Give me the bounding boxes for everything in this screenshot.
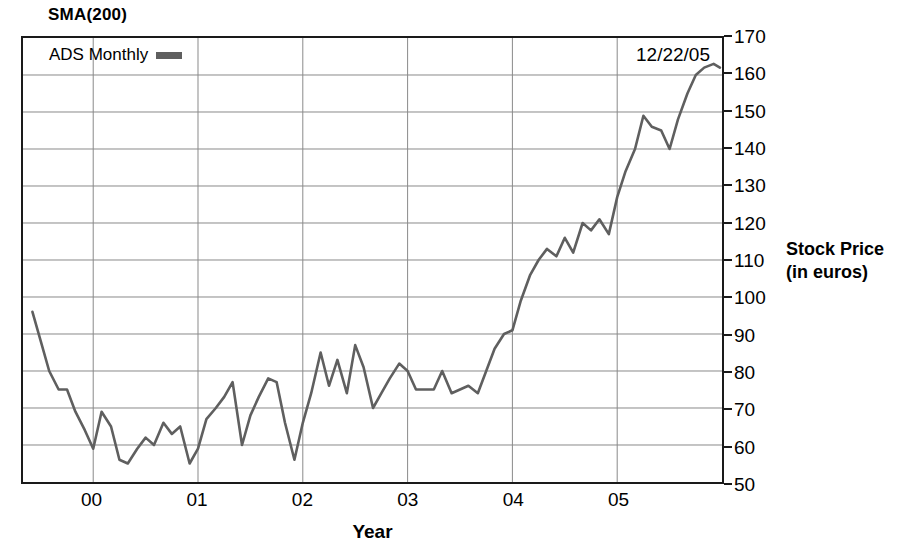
y-axis-tick-label: 70 bbox=[734, 400, 755, 419]
legend-line-swatch-icon bbox=[156, 52, 182, 59]
x-axis-tick-label: 03 bbox=[397, 489, 418, 511]
x-axis-tick-label: 02 bbox=[292, 489, 313, 511]
y-axis-tick-mark bbox=[724, 222, 732, 224]
y-axis-tick-mark bbox=[724, 147, 732, 149]
y-axis-tick-mark bbox=[724, 110, 732, 112]
x-axis-tick-label: 05 bbox=[608, 489, 629, 511]
y-axis-tick-mark bbox=[724, 334, 732, 336]
y-axis-tick-label: 160 bbox=[734, 64, 766, 83]
x-axis-title: Year bbox=[0, 521, 745, 543]
y-axis-tick-label: 130 bbox=[734, 176, 766, 195]
x-axis-tick-label: 01 bbox=[186, 489, 207, 511]
plot-inner bbox=[23, 38, 722, 482]
y-axis-tick-label: 150 bbox=[734, 101, 766, 120]
series-line-ads-monthly bbox=[23, 38, 722, 482]
chart-title: SMA(200) bbox=[48, 5, 127, 25]
y-axis-tick-mark bbox=[724, 408, 732, 410]
y-axis-tick-label: 80 bbox=[734, 363, 755, 382]
y-axis-tick-mark bbox=[724, 72, 732, 74]
date-annotation: 12/22/05 bbox=[636, 44, 710, 66]
series-polyline bbox=[32, 64, 719, 464]
y-axis-tick-label: 60 bbox=[734, 437, 755, 456]
x-axis-tick-label: 00 bbox=[81, 489, 102, 511]
plot-area: ADS Monthly 12/22/05 bbox=[21, 36, 724, 484]
y-axis-tick-mark bbox=[724, 184, 732, 186]
y-axis-tick-mark bbox=[724, 259, 732, 261]
y-axis-tick-mark bbox=[724, 35, 732, 37]
stock-price-chart: SMA(200) ADS Monthly 12/22/05 1701601501… bbox=[0, 0, 921, 553]
y-axis-title-line-1: Stock Price bbox=[786, 238, 884, 261]
y-axis-tick-mark bbox=[724, 483, 732, 485]
y-axis-tick-label: 50 bbox=[734, 475, 755, 494]
y-axis-tick-label: 170 bbox=[734, 27, 766, 46]
y-axis-title: Stock Price (in euros) bbox=[786, 238, 884, 283]
y-axis-tick-label: 100 bbox=[734, 288, 766, 307]
y-axis-tick-label: 140 bbox=[734, 139, 766, 158]
legend-label-ads-monthly: ADS Monthly bbox=[49, 45, 148, 65]
y-axis-tick-mark bbox=[724, 296, 732, 298]
y-axis-tick-label: 110 bbox=[734, 251, 764, 270]
x-axis-tick-label: 04 bbox=[503, 489, 524, 511]
y-axis-tick-label: 90 bbox=[734, 325, 755, 344]
y-axis-tick-label: 120 bbox=[734, 213, 766, 232]
legend: ADS Monthly bbox=[49, 45, 182, 65]
y-axis-tick-mark bbox=[724, 446, 732, 448]
y-axis-title-line-2: (in euros) bbox=[786, 261, 884, 284]
y-axis-tick-mark bbox=[724, 371, 732, 373]
